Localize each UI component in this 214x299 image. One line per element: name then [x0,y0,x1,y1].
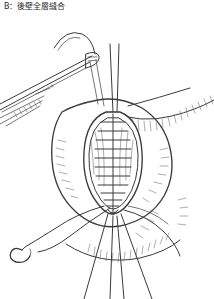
figure-root: B：後壁全層縫合 [0,0,214,299]
tissue-hatch-lower [66,233,180,262]
tissue-fold-upper [54,33,95,54]
surgical-illustration [0,0,214,299]
